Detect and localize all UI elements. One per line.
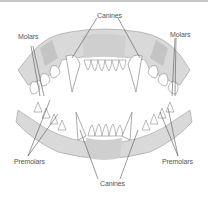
label-premolars-right: Premolars: [162, 158, 193, 165]
upper-incisors: [84, 60, 126, 71]
lower-cheek-teeth: [34, 102, 174, 130]
label-molars-right: Molars: [170, 31, 190, 38]
lower-incisors: [88, 124, 123, 136]
label-canines-top: Canines: [97, 12, 122, 19]
upper-cheek-teeth: [30, 66, 178, 94]
label-canines-bottom: Canines: [100, 180, 125, 187]
label-molars-left: Molars: [18, 33, 38, 40]
jaw-illustration: [0, 0, 208, 197]
label-premolars-left: Premolars: [14, 158, 45, 165]
